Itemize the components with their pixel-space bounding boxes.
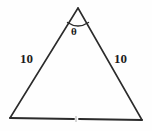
side-length-label-left: 10: [20, 52, 33, 65]
side-length-label-right: 10: [114, 52, 127, 65]
triangle-base-right-segment: [79, 119, 142, 120]
triangle-right-side: [78, 8, 142, 120]
triangle-base-left-segment: [10, 118, 74, 119]
geometry-figure: 10 10 θ: [0, 0, 152, 131]
apex-angle-label-theta: θ: [71, 26, 77, 37]
